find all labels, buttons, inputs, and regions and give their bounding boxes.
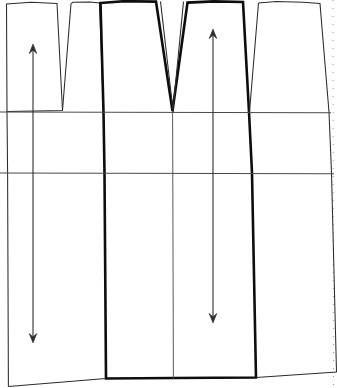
canvas-background	[0, 0, 337, 388]
pattern-drawing-canvas: Skirt Pattern Draft	[0, 0, 337, 388]
pattern-svg	[0, 0, 337, 388]
